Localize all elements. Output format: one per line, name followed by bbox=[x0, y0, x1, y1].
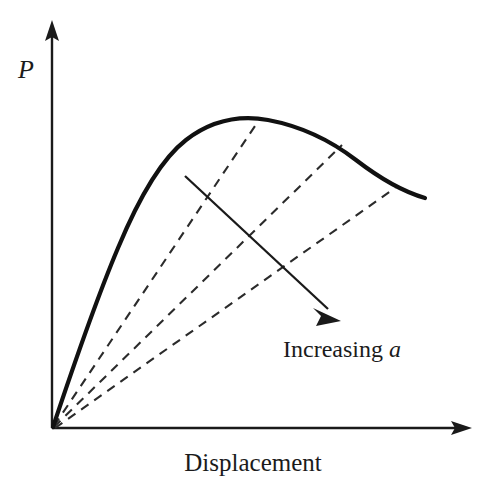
unloading-secant-3 bbox=[55, 188, 395, 428]
load-displacement-curve bbox=[53, 118, 425, 427]
x-axis bbox=[52, 421, 472, 435]
unloading-secant-group bbox=[54, 120, 395, 428]
y-axis-label: P bbox=[18, 57, 34, 83]
increasing-a-text: Increasing bbox=[283, 336, 383, 362]
increasing-a-annotation: Increasing a bbox=[283, 337, 401, 361]
crack-length-symbol: a bbox=[389, 336, 401, 362]
x-axis-label: Displacement bbox=[0, 450, 496, 475]
y-axis bbox=[45, 20, 59, 428]
figure-vector-layer bbox=[0, 0, 496, 501]
trend-arrow-shaft bbox=[185, 176, 328, 309]
trend-arrow-head-icon bbox=[313, 308, 341, 326]
figure-canvas: P Displacement Increasing a bbox=[0, 0, 496, 501]
increasing-a-arrow bbox=[185, 176, 341, 326]
unloading-secant-1 bbox=[54, 120, 259, 426]
